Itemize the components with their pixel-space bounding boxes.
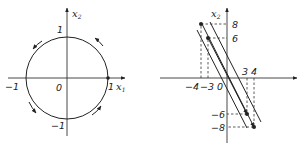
tick-x-3: 3 [242,66,248,77]
x2-axis-label: x2 [72,8,82,20]
tick-x-4: 4 [251,66,257,77]
diagram-canvas: x2 x1 1 −1 0 1 −1 x2 8 6 −6 −8 −4 −3 0 [0,0,300,152]
ccw-arrow-icon [33,41,42,49]
point [245,112,249,116]
unit-circle-figure: x2 x1 1 −1 0 1 −1 [5,8,125,136]
tick-x-pos: 1 [108,81,114,92]
ccw-arrow-icon [95,38,103,46]
tick-y-8: 8 [232,19,238,30]
tick-x-neg4: −4 [185,81,199,92]
point [206,36,210,40]
point [199,22,203,26]
tick-y-6: 6 [232,33,238,44]
projection-dash [201,24,227,78]
origin-label: 0 [56,82,62,93]
x2-axis-label: x2 [211,8,221,20]
tick-y-neg6: −6 [211,109,225,120]
parallel-lines-figure: x2 8 6 −6 −8 −4 −3 0 3 4 [160,8,297,143]
origin-label: 0 [217,81,223,92]
marked-point [106,76,110,80]
x1-axis-label: x1 [116,81,125,93]
tick-x-neg3: −3 [200,81,214,92]
tick-y-neg8: −8 [211,122,225,133]
tick-x-neg: −1 [5,81,19,92]
tick-y-pos: 1 [57,24,63,35]
tick-y-neg: −1 [51,120,65,131]
point [252,125,256,129]
ccw-arrow-icon [92,106,101,115]
